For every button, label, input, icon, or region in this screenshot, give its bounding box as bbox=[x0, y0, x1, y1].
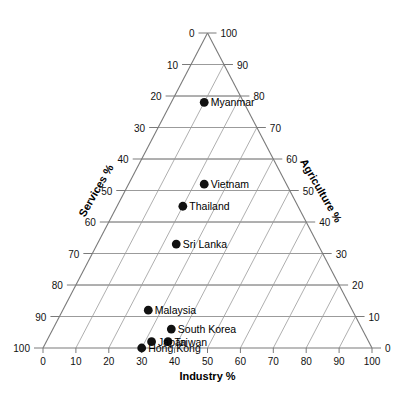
tick-industry-0: 0 bbox=[40, 356, 46, 367]
tick-agriculture-100: 100 bbox=[221, 28, 238, 39]
data-point-marker[interactable] bbox=[200, 98, 209, 107]
tick-agriculture-20: 20 bbox=[352, 280, 364, 291]
tick-agriculture-90: 90 bbox=[237, 60, 249, 71]
tick-services-30: 30 bbox=[134, 123, 146, 134]
tick-industry-90: 90 bbox=[334, 356, 346, 367]
data-point[interactable]: Myanmar bbox=[200, 96, 255, 108]
tick-industry-40: 40 bbox=[169, 356, 181, 367]
chart-title bbox=[0, 0, 410, 2]
tick-industry-20: 20 bbox=[103, 356, 115, 367]
data-point-marker[interactable] bbox=[172, 240, 181, 249]
data-point-label: Malaysia bbox=[155, 304, 197, 316]
tick-industry-80: 80 bbox=[301, 356, 313, 367]
tick-agriculture-80: 80 bbox=[253, 91, 265, 102]
tick-industry-50: 50 bbox=[202, 356, 214, 367]
tick-industry-100: 100 bbox=[364, 356, 381, 367]
data-point[interactable]: Sri Lanka bbox=[172, 238, 227, 250]
tick-industry-70: 70 bbox=[268, 356, 280, 367]
data-point-marker[interactable] bbox=[144, 306, 153, 315]
data-point-label: Hong Kong bbox=[148, 342, 201, 354]
data-point-marker[interactable] bbox=[200, 180, 209, 189]
ternary-chart: 0102030405060708090100Industry %01020304… bbox=[0, 0, 410, 394]
tick-services-100: 100 bbox=[13, 343, 30, 354]
data-point-marker[interactable] bbox=[178, 202, 187, 211]
tick-services-40: 40 bbox=[118, 154, 130, 165]
tick-services-70: 70 bbox=[68, 249, 80, 260]
tick-industry-10: 10 bbox=[70, 356, 82, 367]
tick-services-10: 10 bbox=[167, 60, 179, 71]
tick-agriculture-60: 60 bbox=[286, 154, 298, 165]
tick-agriculture-10: 10 bbox=[369, 312, 381, 323]
data-point-label: Thailand bbox=[189, 200, 229, 212]
tick-agriculture-40: 40 bbox=[319, 217, 331, 228]
tick-services-90: 90 bbox=[35, 312, 47, 323]
data-point[interactable]: Vietnam bbox=[200, 178, 249, 190]
data-point[interactable]: Thailand bbox=[178, 200, 229, 212]
tick-agriculture-70: 70 bbox=[270, 123, 282, 134]
data-point-marker[interactable] bbox=[167, 325, 176, 334]
tick-services-0: 0 bbox=[189, 28, 195, 39]
data-point-label: South Korea bbox=[178, 323, 237, 335]
tick-industry-30: 30 bbox=[136, 356, 148, 367]
data-point-label: Sri Lanka bbox=[183, 238, 228, 250]
data-point-label: Myanmar bbox=[211, 96, 255, 108]
tick-agriculture-0: 0 bbox=[385, 343, 391, 354]
data-point-marker[interactable] bbox=[137, 344, 146, 353]
ternary-plot-canvas: 0102030405060708090100Industry %01020304… bbox=[0, 0, 410, 394]
axis-title-industry: Industry % bbox=[179, 370, 235, 382]
tick-services-20: 20 bbox=[150, 91, 162, 102]
tick-industry-60: 60 bbox=[235, 356, 247, 367]
tick-agriculture-30: 30 bbox=[336, 249, 348, 260]
data-point[interactable]: Malaysia bbox=[144, 304, 196, 316]
data-point-label: Vietnam bbox=[211, 178, 250, 190]
tick-services-80: 80 bbox=[52, 280, 64, 291]
data-point[interactable]: South Korea bbox=[167, 323, 236, 335]
